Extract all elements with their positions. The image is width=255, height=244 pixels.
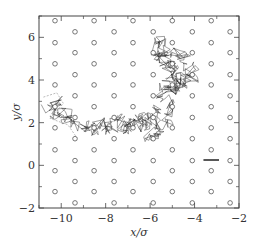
trajectory-line xyxy=(41,36,199,141)
obstacle-circle xyxy=(228,201,233,206)
obstacle-circle xyxy=(112,115,117,120)
obstacle-circle xyxy=(170,18,175,23)
x-tick-label: −10 xyxy=(50,212,73,225)
obstacle-circle xyxy=(131,40,136,45)
obstacle-circle xyxy=(73,158,78,163)
obstacle-circle xyxy=(73,72,78,77)
obstacle-circle xyxy=(112,201,117,206)
y-axis-label: y/σ xyxy=(10,103,23,122)
obstacle-circle xyxy=(209,104,214,109)
obstacle-circle xyxy=(209,189,214,194)
obstacle-circle xyxy=(190,136,195,141)
obstacle-circle xyxy=(112,30,117,35)
obstacle-circle xyxy=(92,168,97,173)
y-tick-label: 0 xyxy=(28,159,35,172)
obstacle-circle xyxy=(92,104,97,109)
obstacle-circle xyxy=(53,148,58,153)
y-tick-label: −2 xyxy=(19,202,35,215)
obstacle-circle xyxy=(53,126,58,131)
obstacle-circle xyxy=(190,158,195,163)
obstacle-circle xyxy=(151,179,156,184)
obstacle-circle xyxy=(170,126,175,131)
obstacle-circle xyxy=(151,50,156,55)
obstacle-circle xyxy=(170,104,175,109)
x-axis-label: x/σ xyxy=(130,226,148,239)
obstacle-circle xyxy=(190,50,195,55)
obstacle-circle xyxy=(190,72,195,77)
obstacle-circle xyxy=(151,201,156,206)
obstacle-circle xyxy=(131,18,136,23)
obstacle-circle xyxy=(151,158,156,163)
obstacle-circle xyxy=(170,168,175,173)
y-tick-labels: −20246 xyxy=(19,31,35,215)
obstacle-circle xyxy=(73,115,78,120)
obstacle-circle xyxy=(228,50,233,55)
axis-ticks xyxy=(39,16,239,208)
obstacle-circle xyxy=(112,72,117,77)
x-tick-label: −8 xyxy=(98,212,114,225)
obstacle-circle xyxy=(131,168,136,173)
obstacle-circle xyxy=(228,72,233,77)
obstacle-circle xyxy=(209,168,214,173)
obstacle-circle xyxy=(151,30,156,35)
obstacle-circle xyxy=(151,94,156,99)
obstacle-circle xyxy=(151,136,156,141)
obstacle-circle xyxy=(53,40,58,45)
obstacle-circle xyxy=(73,201,78,206)
obstacle-circle xyxy=(228,179,233,184)
obstacle-circle xyxy=(209,18,214,23)
obstacle-circle xyxy=(53,18,58,23)
obstacle-circle xyxy=(53,83,58,88)
obstacle-circle xyxy=(131,83,136,88)
obstacle-circle xyxy=(73,136,78,141)
y-tick-label: 2 xyxy=(28,117,35,130)
obstacle-circle xyxy=(73,179,78,184)
obstacle-circle xyxy=(209,62,214,67)
obstacle-circle xyxy=(73,30,78,35)
y-tick-label: 6 xyxy=(28,31,35,44)
obstacle-circle xyxy=(151,72,156,77)
obstacle-circle xyxy=(209,40,214,45)
obstacle-circle xyxy=(190,115,195,120)
obstacle-circle xyxy=(170,62,175,67)
obstacle-circle xyxy=(228,115,233,120)
obstacle-circle xyxy=(112,136,117,141)
x-tick-label: −4 xyxy=(186,212,202,225)
obstacle-circle xyxy=(190,201,195,206)
obstacle-circle xyxy=(53,104,58,109)
obstacle-circle xyxy=(53,189,58,194)
x-tick-labels: −10−8−6−4−2 xyxy=(50,212,247,225)
obstacle-circle xyxy=(228,30,233,35)
obstacle-circle xyxy=(112,94,117,99)
obstacle-circle xyxy=(131,148,136,153)
obstacle-circle xyxy=(92,189,97,194)
obstacle-circle xyxy=(112,50,117,55)
obstacle-circle xyxy=(53,62,58,67)
obstacle-circle xyxy=(92,126,97,131)
obstacle-circle xyxy=(228,136,233,141)
obstacle-circle xyxy=(112,158,117,163)
obstacle-circle xyxy=(131,126,136,131)
obstacle-circle xyxy=(73,50,78,55)
obstacle-circle xyxy=(53,168,58,173)
obstacle-circle xyxy=(92,83,97,88)
obstacle-circle xyxy=(131,62,136,67)
obstacle-circle xyxy=(170,83,175,88)
x-tick-label: −2 xyxy=(231,212,247,225)
obstacle-circle xyxy=(151,115,156,120)
obstacle-circle xyxy=(170,189,175,194)
obstacle-circle xyxy=(92,18,97,23)
lattice-obstacles xyxy=(53,18,233,205)
obstacle-circle xyxy=(92,40,97,45)
obstacle-circle xyxy=(170,40,175,45)
axes-frame xyxy=(39,16,239,208)
obstacle-circle xyxy=(209,148,214,153)
obstacle-circle xyxy=(131,189,136,194)
x-tick-label: −6 xyxy=(142,212,158,225)
obstacle-circle xyxy=(73,94,78,99)
obstacle-circle xyxy=(190,30,195,35)
chart-canvas: −10−8−6−4−2 −20246 x/σ y/σ xyxy=(0,0,255,244)
y-tick-label: 4 xyxy=(28,74,35,87)
obstacle-circle xyxy=(131,104,136,109)
obstacle-circle xyxy=(92,148,97,153)
